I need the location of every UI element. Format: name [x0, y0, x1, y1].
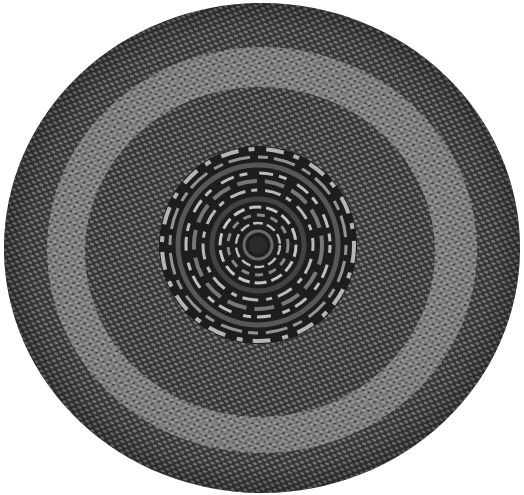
braided-rug-image	[0, 0, 524, 495]
photo-scene	[0, 0, 524, 495]
rug-edge-shading	[4, 3, 520, 493]
